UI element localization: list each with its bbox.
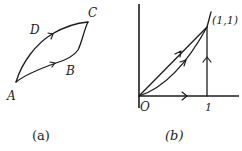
label-x-tick-1: 1	[205, 101, 212, 114]
figure-b: (1,1) O 1 (b)	[139, 4, 239, 143]
label-b: B	[65, 64, 75, 78]
figure-a: D C B A (a)	[6, 6, 97, 143]
caption-a: (a)	[32, 128, 50, 143]
caption-b: (b)	[165, 128, 183, 143]
diagram-canvas: D C B A (a) (1,1) O 1 (b)	[0, 0, 242, 151]
label-point-1-1: (1,1)	[212, 14, 238, 27]
label-origin: O	[140, 100, 150, 114]
label-a: A	[6, 89, 16, 103]
straight-line	[139, 27, 207, 96]
label-d: D	[29, 23, 40, 37]
path-abc	[16, 22, 88, 82]
label-c: C	[88, 6, 97, 20]
